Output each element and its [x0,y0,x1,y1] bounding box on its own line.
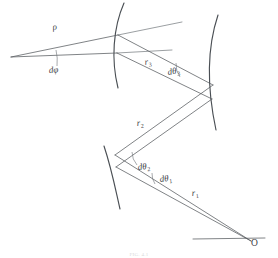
ray-r1-lower [116,167,251,241]
figure-caption: FIG. 4.1 [0,252,278,257]
label-r2: r2 [136,117,144,129]
label-origin-O: O [251,238,258,248]
segment-r1-group [115,155,251,241]
ray-r1-upper [115,155,251,241]
mirror-3-upper-left [114,3,124,88]
label-dtheta2: dθ2 [137,161,150,174]
ray-r3-lower [117,53,212,99]
mirror-1-lower-left [104,146,120,209]
ray-upper-beyond-mirror3 [118,22,182,35]
ray-r2-lower [116,99,212,167]
label-r1: r1 [191,187,199,199]
pencil-from-vertex-group [11,22,182,57]
segment-r2-group [115,85,213,167]
label-group: ρ dφ r3 dθ3 r2 dθ2 dθ1 r1 O [48,21,258,248]
label-dtheta1: dθ1 [159,173,173,186]
ray-lower-beyond-mirror3 [117,50,172,53]
mirror-2-right [209,15,218,130]
angle-mark-dtheta1-icon [152,173,155,184]
angle-mark-group [56,50,180,184]
ray-diagram: ρ dφ r3 dθ3 r2 dθ2 dθ1 r1 O [0,0,278,258]
label-dphi: dφ [48,64,58,75]
label-r3: r3 [144,56,152,68]
label-rho: ρ [51,21,59,32]
figure-root: ρ dφ r3 dθ3 r2 dθ2 dθ1 r1 O FIG. 4.1 [0,0,278,258]
segment-r3-group [117,35,213,99]
ray-r2-upper [115,85,213,155]
